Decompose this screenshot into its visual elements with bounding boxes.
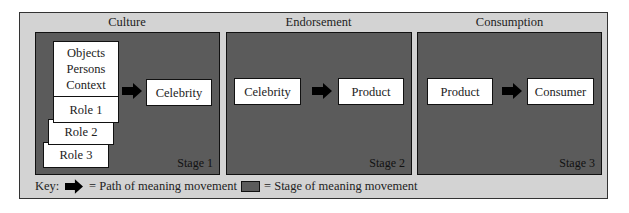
- role-2-text: Role 2: [65, 124, 98, 140]
- legend-stage-swatch: [241, 181, 260, 192]
- stage-3-label: Stage 3: [559, 156, 595, 171]
- stage-3-consumer-text: Consumer: [535, 84, 586, 100]
- role-3-box: Role 3: [43, 142, 109, 168]
- stage-1-label: Stage 1: [177, 156, 213, 171]
- arrow-right-icon: [502, 83, 522, 99]
- arrow-right-icon: [122, 83, 142, 99]
- stage-3-consumer-box: Consumer: [527, 78, 594, 105]
- persons-text: Persons: [67, 61, 106, 77]
- legend-swatch-text: = Stage of meaning movement: [264, 179, 418, 194]
- role-1-text: Role 1: [70, 102, 103, 118]
- column-title-consumption: Consumption: [417, 15, 602, 30]
- stage-3-product-text: Product: [441, 84, 480, 100]
- stage-1-celebrity-text: Celebrity: [156, 85, 203, 101]
- objects-persons-context-box: Objects Persons Context: [53, 41, 119, 97]
- legend-key-label: Key:: [35, 179, 59, 194]
- stage-2-product-text: Product: [352, 84, 391, 100]
- role-1-box: Role 1: [53, 96, 119, 123]
- stage-1-celebrity-box: Celebrity: [146, 79, 212, 106]
- stage-2-product-box: Product: [338, 78, 404, 105]
- stage-3-product-box: Product: [427, 78, 493, 105]
- legend-arrow-text: = Path of meaning movement: [89, 179, 237, 194]
- column-title-endorsement: Endorsement: [226, 15, 411, 30]
- stage-2-celebrity-box: Celebrity: [234, 78, 301, 105]
- objects-text: Objects: [67, 45, 105, 61]
- arrow-right-icon: [312, 83, 332, 99]
- stage-2-celebrity-text: Celebrity: [244, 84, 291, 100]
- column-title-culture: Culture: [35, 15, 219, 30]
- context-text: Context: [66, 77, 106, 93]
- legend-arrow-icon: [65, 179, 83, 194]
- role-3-text: Role 3: [60, 147, 93, 163]
- stage-2-label: Stage 2: [369, 156, 405, 171]
